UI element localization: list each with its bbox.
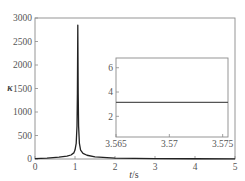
x-tick-label: 3.575 <box>212 139 234 149</box>
x-tick-label: 3.57 <box>161 139 178 149</box>
y-tick-label: 6 <box>108 63 113 73</box>
x-tick-label: 3 <box>153 162 158 172</box>
x-tick-label: 3.565 <box>105 139 127 149</box>
x-axis-label: t/s <box>129 169 139 180</box>
x-tick-label: 5 <box>233 162 238 172</box>
x-tick-label: 4 <box>193 162 198 172</box>
y-tick-label: 2 <box>108 112 113 122</box>
y-tick-label: 3000 <box>13 13 32 23</box>
x-tick-label: 0 <box>33 162 38 172</box>
y-axis-label: κ <box>7 82 13 93</box>
y-tick-label: 2500 <box>13 37 32 47</box>
inset-background <box>116 58 228 137</box>
main-y-axis-ticks: 050010001500200025003000 <box>13 13 38 164</box>
x-tick-label: 2 <box>113 162 118 172</box>
x-tick-label: 1 <box>73 162 78 172</box>
y-tick-label: 1500 <box>13 84 32 94</box>
y-tick-label: 1000 <box>13 107 32 117</box>
chart-figure: 050010001500200025003000 012345 κ t/s 24… <box>0 0 245 181</box>
y-tick-label: 4 <box>108 87 113 97</box>
y-tick-label: 0 <box>27 154 32 164</box>
x-axis-label-unit: /s <box>132 169 139 180</box>
inset-plot: 246 3.5653.573.575 <box>105 58 233 149</box>
y-tick-label: 500 <box>18 131 33 141</box>
y-tick-label: 2000 <box>13 60 32 70</box>
